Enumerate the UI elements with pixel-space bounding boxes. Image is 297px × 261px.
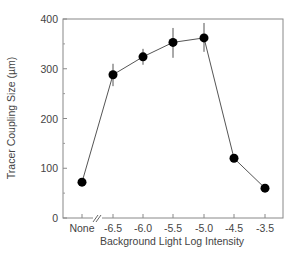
y-tick-label: 100 (40, 162, 58, 174)
data-point-marker (139, 52, 148, 61)
data-series (78, 23, 270, 193)
series-line (82, 38, 265, 188)
x-tick-label: -3.5 (256, 222, 274, 234)
x-axis-label: Background Light Log Intensity (100, 235, 245, 247)
x-tick-label: -6.0 (134, 222, 152, 234)
x-tick-label: -5.0 (195, 222, 213, 234)
data-point-marker (109, 70, 118, 79)
data-point-marker (230, 154, 239, 163)
y-tick-label: 400 (40, 13, 58, 25)
data-point-marker (261, 184, 270, 193)
data-point-marker (169, 38, 178, 47)
data-point-marker (78, 178, 87, 187)
line-chart: 0100200300400 None-6.5-6.0-5.5-5.0-4.5-3… (0, 0, 297, 261)
y-tick-label: 0 (52, 212, 58, 224)
chart: 0100200300400 None-6.5-6.0-5.5-5.0-4.5-3… (0, 0, 297, 261)
x-tick-label: -5.5 (164, 222, 182, 234)
x-tick-label: -6.5 (104, 222, 122, 234)
y-tick-label: 200 (40, 113, 58, 125)
x-tick-label: None (69, 222, 94, 234)
y-axis-label: Tracer Coupling Size (µm) (5, 57, 17, 179)
axis-break-marker (93, 214, 102, 222)
data-point-marker (200, 33, 209, 42)
x-tick-label: -4.5 (225, 222, 243, 234)
y-tick-label: 300 (40, 63, 58, 75)
